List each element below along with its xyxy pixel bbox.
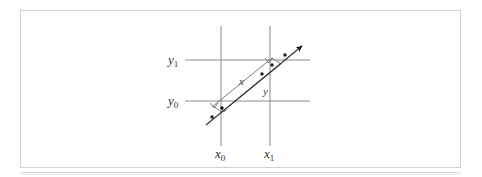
label-x0: x0 [214,146,226,163]
label-segment-y: y [262,85,268,97]
label-y0-sub: 0 [174,100,179,110]
ray-node-dot [210,115,213,118]
ray-node-dot [260,72,263,75]
label-y0: y0 [166,93,179,110]
ray-node-dot [283,53,286,56]
direction-ray [206,46,302,125]
label-x1: x1 [263,146,274,163]
ray-node-dot [270,63,273,66]
geometry-diagram: y1 y0 x0 x1 x y [0,0,482,177]
ray-node-dot [220,106,223,109]
label-x0-sub: 0 [221,153,226,163]
label-segment-x: x [238,75,244,87]
label-x1-sub: 1 [270,153,275,163]
label-y1: y1 [166,52,178,69]
figure-page: y1 y0 x0 x1 x y [0,0,482,177]
label-y1-sub: 1 [174,59,179,69]
